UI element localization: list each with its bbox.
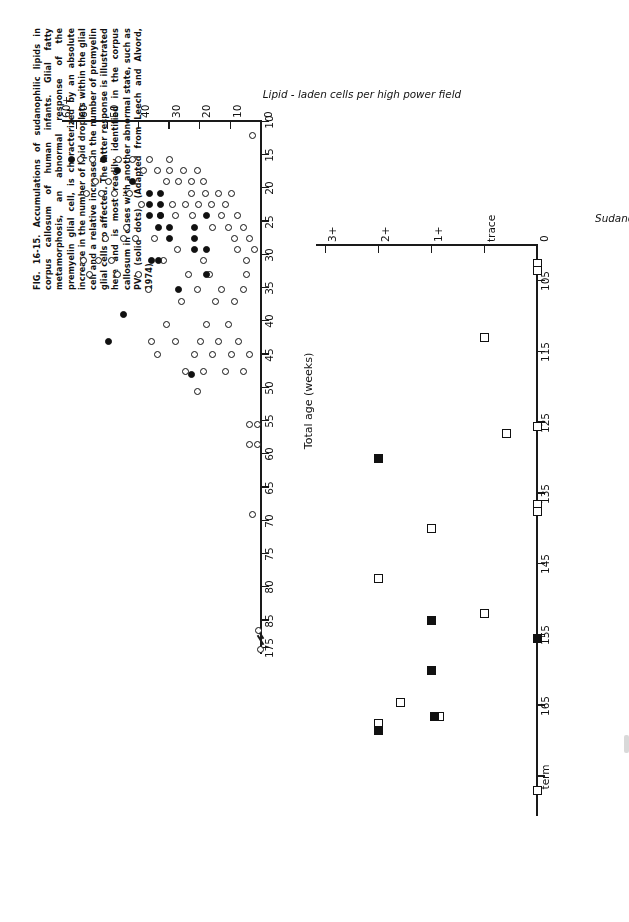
y-axis-title: Lipid - laden cells per high power field (262, 88, 462, 101)
scatter-plot-sudanophilic-lipids: 0trace1+2+3+105115125135145155165termSud… (300, 190, 600, 830)
data-point (208, 201, 215, 208)
data-point (191, 246, 198, 253)
data-point (180, 167, 187, 174)
data-point (249, 511, 256, 518)
x-axis-tick-label: 145 (539, 554, 551, 574)
data-point (157, 201, 164, 208)
data-point (246, 441, 253, 448)
data-point (481, 333, 490, 342)
y-axis-tick-label: 40 (139, 105, 151, 118)
data-point (166, 224, 173, 231)
data-point (172, 212, 179, 219)
data-point (114, 167, 121, 174)
data-point (172, 338, 179, 345)
data-point (228, 190, 235, 197)
data-point (225, 321, 232, 328)
data-point (154, 167, 161, 174)
data-point (195, 201, 202, 208)
x-axis-tick-label: 115 (539, 342, 551, 362)
y-axis-tick (431, 246, 432, 253)
data-point (246, 351, 253, 358)
y-axis-tick (168, 122, 169, 129)
data-point (235, 338, 242, 345)
y-axis-tick (138, 122, 139, 129)
data-point (102, 235, 109, 242)
data-point (246, 235, 253, 242)
y-axis-tick-label: 20 (200, 105, 212, 118)
y-axis-tick (76, 122, 77, 129)
data-point (77, 156, 84, 163)
data-point (231, 235, 238, 242)
y-axis-tick-label-60plus: 60+ (60, 96, 72, 118)
data-point (188, 190, 195, 197)
data-point (80, 258, 87, 265)
data-point (427, 616, 436, 625)
x-axis-tick-label: 30 (263, 248, 275, 261)
data-point (166, 167, 173, 174)
data-point (534, 634, 543, 643)
data-point (215, 338, 222, 345)
data-point (139, 201, 146, 208)
data-point (254, 441, 261, 448)
data-point (200, 258, 207, 265)
data-point (123, 224, 130, 231)
data-point (157, 190, 164, 197)
data-point (219, 212, 226, 219)
data-point (189, 212, 196, 219)
y-axis-tick-label: 3+ (326, 227, 338, 242)
data-point (185, 271, 192, 278)
x-axis-tick-label: 10 (263, 115, 275, 128)
data-point (396, 698, 405, 707)
data-point (148, 338, 155, 345)
data-point (175, 286, 182, 293)
y-axis-tick-label: 2+ (379, 227, 391, 242)
data-point (146, 156, 153, 163)
data-point (534, 786, 543, 795)
data-point (99, 190, 106, 197)
data-point (234, 246, 241, 253)
data-point (430, 712, 439, 721)
data-point (222, 368, 229, 375)
data-point (188, 178, 195, 185)
data-point (243, 258, 250, 265)
data-point (163, 178, 170, 185)
data-point (83, 190, 90, 197)
page-artifact (624, 735, 629, 753)
data-point (254, 421, 261, 428)
y-axis-tick-label: 1+ (432, 227, 444, 242)
data-point (534, 266, 543, 275)
y-axis-tick (537, 246, 538, 253)
x-axis-tick-label: 65 (263, 481, 275, 494)
data-point (157, 212, 164, 219)
y-axis-tick (325, 246, 326, 253)
y-axis-tick-label: 60 (77, 105, 89, 118)
x-axis-tick-label: 45 (263, 348, 275, 361)
data-point (89, 156, 96, 163)
x-axis-tick-label: 80 (263, 581, 275, 594)
data-point (166, 156, 173, 163)
y-axis-tick (199, 122, 200, 129)
data-point (243, 271, 250, 278)
data-point (194, 167, 201, 174)
y-axis-tick (261, 122, 262, 129)
data-point (200, 178, 207, 185)
y-axis-tick (484, 246, 485, 253)
data-point (132, 235, 139, 242)
data-point (502, 429, 511, 438)
y-axis-tick (378, 246, 379, 253)
x-axis-tick-label: 35 (263, 282, 275, 295)
data-point (374, 454, 383, 463)
data-point (374, 726, 383, 735)
data-point (200, 368, 207, 375)
data-point (163, 321, 170, 328)
data-point (202, 190, 209, 197)
data-point (146, 201, 153, 208)
data-point (68, 156, 75, 163)
data-point (95, 258, 102, 265)
data-point (120, 235, 127, 242)
data-point (146, 190, 153, 197)
data-point (105, 338, 112, 345)
y-axis-tick (107, 122, 108, 129)
x-axis (536, 244, 538, 816)
data-point (191, 351, 198, 358)
